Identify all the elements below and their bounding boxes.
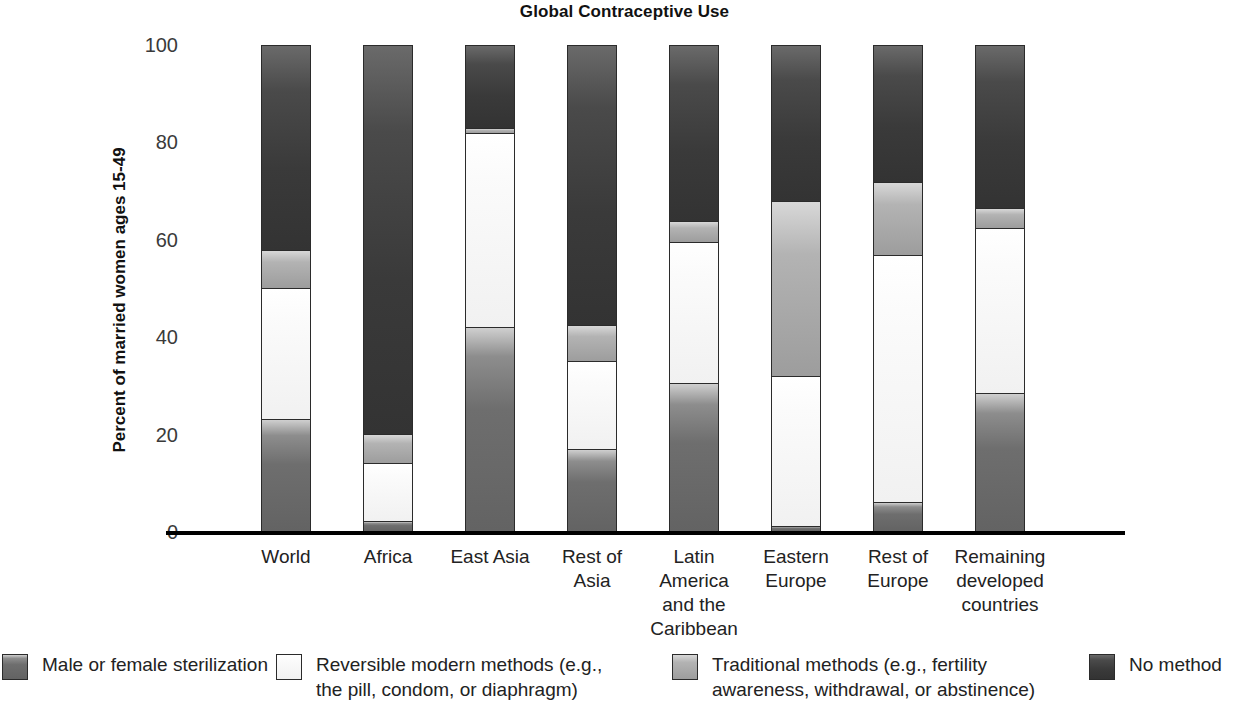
page-title: Global Contraceptive Use	[0, 2, 1249, 22]
legend-swatch-reversible-icon	[276, 654, 302, 680]
bar-remaining-developed-countries[interactable]	[975, 45, 1025, 532]
bar-segment-no-method[interactable]	[466, 46, 514, 128]
bar-segment-traditional[interactable]	[772, 201, 820, 376]
bar-segment-traditional[interactable]	[568, 325, 616, 361]
bar-segment-no-method[interactable]	[772, 46, 820, 201]
bar-segment-no-method[interactable]	[262, 46, 310, 250]
bar-segment-sterilization[interactable]	[976, 393, 1024, 531]
bar-segment-reversible-modern[interactable]	[874, 255, 922, 502]
y-axis-tick-60: 60	[156, 228, 178, 251]
bar-segment-sterilization[interactable]	[670, 383, 718, 531]
legend-label: Reversible modern methods (e.g., the pil…	[316, 652, 602, 702]
bar-africa[interactable]	[363, 45, 413, 532]
x-axis-line	[166, 531, 1125, 535]
legend-label: No method	[1129, 652, 1222, 677]
y-axis-tick-100: 100	[145, 34, 178, 57]
legend-item-sterilization[interactable]: Male or female sterilization	[2, 652, 268, 680]
bar-segment-no-method[interactable]	[568, 46, 616, 325]
y-axis-tick-80: 80	[156, 131, 178, 154]
x-axis-label-7: Remainingdevelopedcountries	[934, 545, 1066, 617]
y-axis-tick-40: 40	[156, 326, 178, 349]
bar-segment-traditional[interactable]	[364, 434, 412, 463]
legend-item-reversible[interactable]: Reversible modern methods (e.g., the pil…	[276, 652, 602, 702]
bar-segment-traditional[interactable]	[670, 221, 718, 243]
legend-swatch-traditional-icon	[672, 654, 698, 680]
bar-segment-sterilization[interactable]	[874, 502, 922, 531]
bar-segment-no-method[interactable]	[670, 46, 718, 221]
bar-segment-reversible-modern[interactable]	[772, 376, 820, 526]
legend-swatch-sterilization-icon	[2, 654, 28, 680]
bar-rest-of-asia[interactable]	[567, 45, 617, 532]
bar-segment-sterilization[interactable]	[262, 419, 310, 531]
bar-segment-sterilization[interactable]	[466, 327, 514, 531]
bar-segment-sterilization[interactable]	[568, 449, 616, 531]
bar-segment-reversible-modern[interactable]	[670, 242, 718, 383]
plot-area: 020406080100	[190, 45, 1125, 532]
legend-label: Male or female sterilization	[42, 652, 268, 677]
bar-segment-no-method[interactable]	[364, 46, 412, 434]
legend: Male or female sterilizationReversible m…	[0, 652, 1249, 717]
legend-swatch-nomethod-icon	[1089, 654, 1115, 680]
bar-segment-reversible-modern[interactable]	[262, 288, 310, 419]
bar-rest-of-europe[interactable]	[873, 45, 923, 532]
bar-segment-traditional[interactable]	[262, 250, 310, 289]
bar-segment-reversible-modern[interactable]	[364, 463, 412, 521]
bar-latin-america-and-the-caribbean[interactable]	[669, 45, 719, 532]
legend-item-nomethod[interactable]: No method	[1089, 652, 1222, 680]
bar-segment-no-method[interactable]	[976, 46, 1024, 208]
y-axis-tick-20: 20	[156, 423, 178, 446]
y-axis-label: Percent of married women ages 15-49	[110, 80, 130, 520]
legend-label: Traditional methods (e.g., fertility awa…	[712, 652, 1035, 702]
bar-segment-traditional[interactable]	[976, 208, 1024, 227]
bar-segment-traditional[interactable]	[874, 182, 922, 255]
bar-segment-reversible-modern[interactable]	[976, 228, 1024, 393]
bar-eastern-europe[interactable]	[771, 45, 821, 532]
chart-page: Global Contraceptive Use Percent of marr…	[0, 0, 1249, 717]
bar-segment-reversible-modern[interactable]	[466, 133, 514, 327]
legend-item-traditional[interactable]: Traditional methods (e.g., fertility awa…	[672, 652, 1035, 702]
bar-east-asia[interactable]	[465, 45, 515, 532]
bar-segment-reversible-modern[interactable]	[568, 361, 616, 448]
bar-world[interactable]	[261, 45, 311, 532]
bar-segment-no-method[interactable]	[874, 46, 922, 182]
bar-segment-sterilization[interactable]	[364, 521, 412, 531]
